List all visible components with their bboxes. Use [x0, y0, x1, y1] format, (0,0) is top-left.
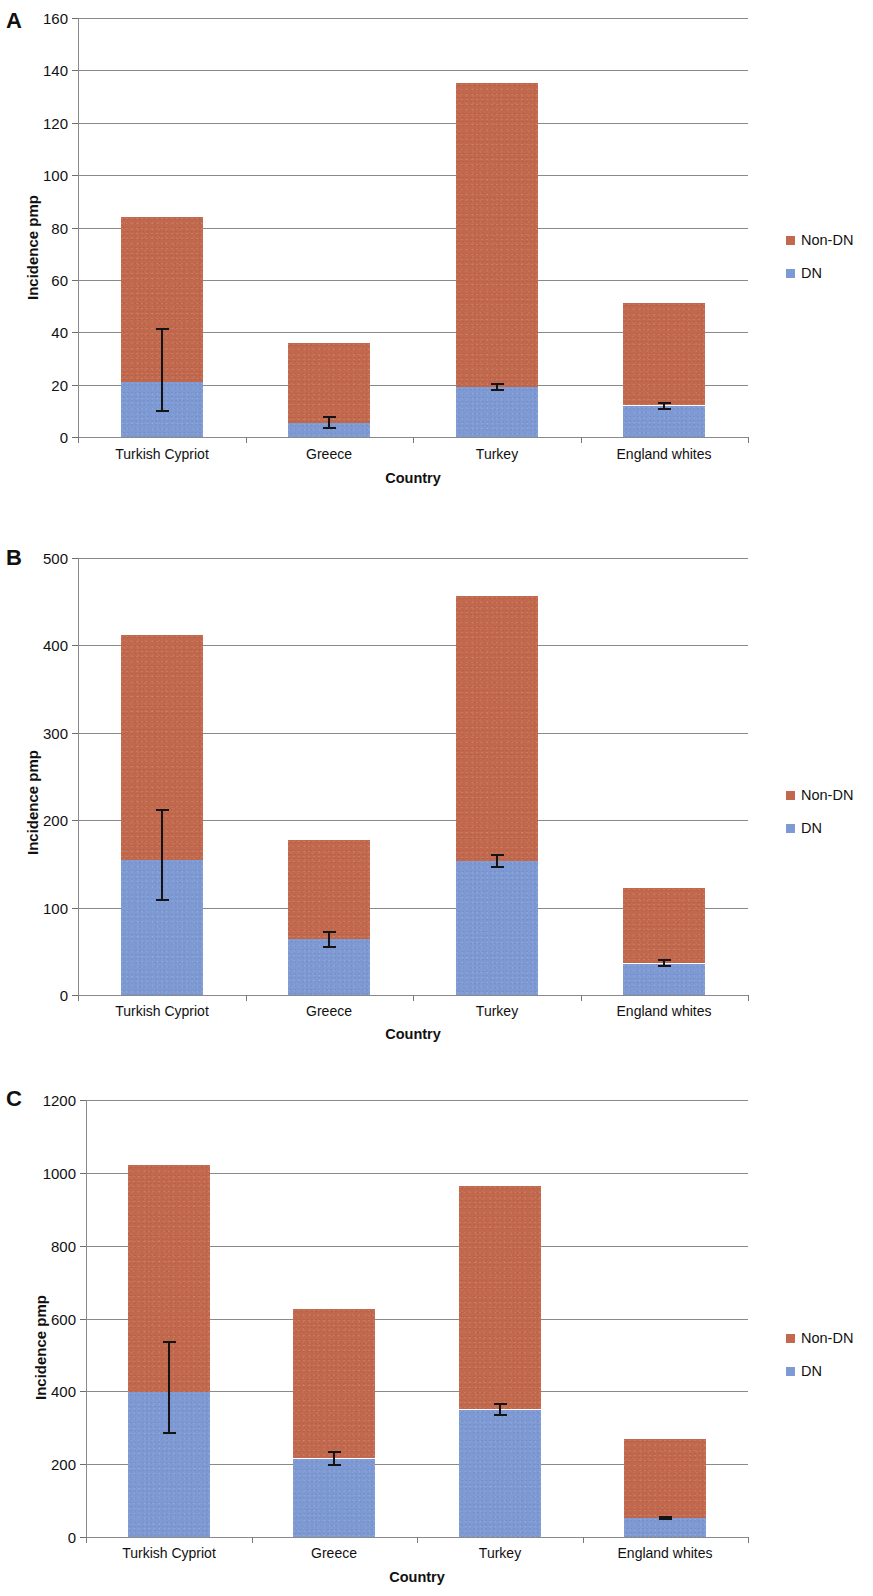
error-bar-cap-top — [491, 854, 504, 856]
gridline — [78, 733, 748, 734]
x-tick-mark — [86, 1537, 87, 1543]
y-axis-spine — [78, 558, 79, 995]
x-tick-label: Greece — [306, 1003, 352, 1019]
error-bar-cap-bottom — [156, 410, 169, 412]
error-bar-cap-bottom — [658, 408, 671, 410]
gridline — [78, 558, 748, 559]
x-axis-title: Country — [389, 1569, 445, 1585]
y-tick-mark — [72, 123, 78, 124]
y-tick-mark — [80, 1391, 86, 1392]
legend-label-non-dn: Non-DN — [801, 1330, 853, 1346]
chart-panel-b: B0100200300400500Incidence pmpTurkish Cy… — [0, 0, 873, 1596]
gridline — [78, 332, 748, 333]
gridline — [78, 995, 748, 996]
y-tick-label: 0 — [16, 987, 68, 1004]
y-tick-mark — [72, 995, 78, 996]
gridline — [78, 820, 748, 821]
bar-segment-dn — [623, 964, 705, 995]
gridline — [86, 1464, 748, 1465]
x-tick-label: England whites — [618, 1545, 713, 1561]
legend-item-non-dn: Non-DN — [786, 232, 853, 248]
x-tick-label: Turkish Cypriot — [115, 1003, 209, 1019]
x-tick-label: Turkey — [479, 1545, 521, 1561]
gridline — [78, 70, 748, 71]
y-tick-mark — [80, 1537, 86, 1538]
gridline — [78, 645, 748, 646]
error-bar-stem — [333, 1451, 335, 1466]
error-bar-cap-bottom — [659, 1518, 672, 1520]
legend-swatch-non-dn — [786, 1334, 795, 1343]
gridline — [78, 18, 748, 19]
bar-segment-dn — [459, 1410, 541, 1537]
y-axis-spine — [86, 1100, 87, 1537]
bar-segment-non-dn — [121, 635, 203, 860]
gridline — [86, 1246, 748, 1247]
y-axis-title: Incidence pmp — [24, 750, 41, 855]
bar-segment-dn — [288, 423, 370, 437]
x-tick-label: England whites — [617, 446, 712, 462]
bar-segment-non-dn — [456, 596, 538, 862]
legend-swatch-dn — [786, 1367, 795, 1376]
gridline — [86, 1173, 748, 1174]
y-tick-mark — [72, 18, 78, 19]
bar-segment-dn — [128, 1392, 210, 1537]
y-tick-mark — [72, 385, 78, 386]
error-bar-cap-top — [658, 959, 671, 961]
y-tick-label: 300 — [16, 725, 68, 742]
bar-segment-non-dn — [121, 217, 203, 382]
x-tick-label: Turkish Cypriot — [115, 446, 209, 462]
x-tick-mark — [413, 437, 414, 443]
error-bar-stem — [663, 959, 665, 967]
legend-swatch-dn — [786, 269, 795, 278]
error-bar-cap-bottom — [323, 427, 336, 429]
y-tick-label: 100 — [16, 900, 68, 917]
y-tick-mark — [72, 908, 78, 909]
bar-segment-dn — [121, 860, 203, 995]
legend-item-dn: DN — [786, 265, 822, 281]
x-axis-title: Country — [385, 1026, 441, 1042]
y-tick-mark — [72, 175, 78, 176]
error-bar-cap-bottom — [494, 1414, 507, 1416]
y-tick-label: 1200 — [24, 1092, 76, 1109]
error-bar-stem — [496, 383, 498, 391]
y-tick-mark — [72, 280, 78, 281]
x-tick-mark — [246, 437, 247, 443]
error-bar-cap-top — [323, 931, 336, 933]
y-tick-label: 400 — [16, 637, 68, 654]
bar-segment-non-dn — [623, 303, 705, 405]
error-bar-cap-top — [658, 402, 671, 404]
x-tick-label: England whites — [617, 1003, 712, 1019]
x-tick-mark — [583, 1537, 584, 1543]
x-tick-label: Greece — [311, 1545, 357, 1561]
gridline — [86, 1319, 748, 1320]
legend-item-non-dn: Non-DN — [786, 1330, 853, 1346]
y-tick-mark — [80, 1173, 86, 1174]
y-tick-label: 40 — [16, 324, 68, 341]
y-tick-mark — [80, 1246, 86, 1247]
x-tick-mark — [581, 995, 582, 1001]
error-bar-stem — [664, 1516, 666, 1520]
gridline — [78, 228, 748, 229]
error-bar-stem — [499, 1403, 501, 1416]
y-tick-mark — [80, 1100, 86, 1101]
y-tick-mark — [72, 820, 78, 821]
bar-segment-non-dn — [624, 1439, 706, 1518]
y-tick-label: 400 — [24, 1383, 76, 1400]
x-tick-mark — [417, 1537, 418, 1543]
x-tick-mark — [78, 437, 79, 443]
error-bar-cap-top — [156, 809, 169, 811]
error-bar-stem — [328, 416, 330, 429]
bar-segment-non-dn — [459, 1186, 541, 1409]
bar-segment-dn — [456, 861, 538, 995]
y-tick-mark — [80, 1319, 86, 1320]
error-bar-stem — [496, 854, 498, 868]
x-tick-mark — [748, 437, 749, 443]
x-tick-label: Turkey — [476, 446, 518, 462]
x-tick-mark — [413, 995, 414, 1001]
y-axis-spine — [78, 18, 79, 437]
y-tick-label: 500 — [16, 550, 68, 567]
y-tick-mark — [72, 332, 78, 333]
y-tick-label: 140 — [16, 62, 68, 79]
y-tick-mark — [72, 70, 78, 71]
bar-segment-non-dn — [293, 1309, 375, 1458]
